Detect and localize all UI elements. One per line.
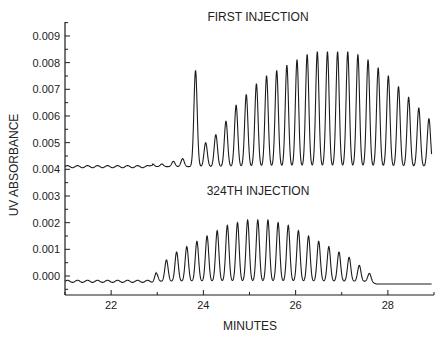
- first-injection-trace: [65, 52, 432, 168]
- y-axis-title: UV ABSORBANCE: [7, 114, 21, 217]
- 324th-injection-label: 324TH INJECTION: [207, 184, 310, 198]
- y-tick-label: 0.006: [32, 110, 60, 122]
- y-tick-label: 0.003: [32, 190, 60, 202]
- y-tick-label: 0.001: [32, 243, 60, 255]
- y-tick-label: 0.007: [32, 83, 60, 95]
- 324th-injection-trace: [65, 220, 432, 284]
- x-tick-label: 22: [105, 299, 117, 311]
- x-axis-title: MINUTES: [223, 319, 277, 333]
- chromatogram-chart: 0.0000.0010.0020.0030.0040.0050.0060.007…: [0, 0, 447, 343]
- y-tick-label: 0.005: [32, 137, 60, 149]
- x-tick-label: 26: [290, 299, 302, 311]
- x-tick-label: 24: [197, 299, 209, 311]
- y-tick-label: 0.002: [32, 217, 60, 229]
- y-axis: 0.0000.0010.0020.0030.0040.0050.0060.007…: [32, 22, 70, 295]
- y-tick-label: 0.000: [32, 270, 60, 282]
- x-tick-label: 28: [382, 299, 394, 311]
- y-tick-label: 0.004: [32, 163, 60, 175]
- first-injection-label: FIRST INJECTION: [207, 10, 308, 24]
- y-tick-label: 0.009: [32, 30, 60, 42]
- y-tick-label: 0.008: [32, 57, 60, 69]
- x-axis: 22242628: [65, 290, 434, 311]
